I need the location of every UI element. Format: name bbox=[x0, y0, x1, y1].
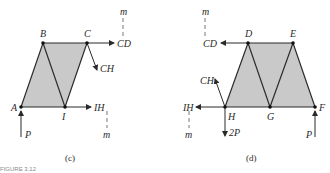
force-label-ch: CH bbox=[100, 63, 115, 74]
panel-d: D E F G H CD CH IH 2P P m m (d) bbox=[182, 6, 326, 163]
section-label-bottom-d: m bbox=[185, 129, 192, 140]
force-label-p: P bbox=[24, 129, 31, 140]
force-label-cd: CD bbox=[117, 38, 132, 49]
node-label-e: E bbox=[289, 28, 296, 39]
truss-section-d-fill bbox=[225, 43, 315, 107]
force-label-ih-d: IH bbox=[182, 102, 194, 113]
section-label-bottom: m bbox=[103, 129, 110, 140]
section-label-top-d: m bbox=[202, 6, 209, 17]
node-label-i: I bbox=[61, 111, 66, 122]
figure-footer-fragment: FIGURE 3.12 bbox=[0, 166, 36, 172]
node-e bbox=[291, 41, 295, 45]
truss-free-body-diagrams: A B C I CD CH IH P m m (c) bbox=[0, 0, 330, 173]
node-i bbox=[63, 105, 67, 109]
node-label-g: G bbox=[267, 111, 274, 122]
node-label-a: A bbox=[10, 102, 18, 113]
node-label-b: B bbox=[40, 28, 46, 39]
section-label-top: m bbox=[120, 6, 127, 17]
node-b bbox=[41, 41, 45, 45]
panel-c: A B C I CD CH IH P m m (c) bbox=[10, 6, 132, 163]
force-label-2p: 2P bbox=[229, 127, 240, 138]
force-label-ih: IH bbox=[93, 102, 105, 113]
force-label-ch-d: CH bbox=[200, 75, 215, 86]
force-arrow-ch-d bbox=[215, 79, 225, 107]
node-label-d: D bbox=[244, 28, 253, 39]
node-c bbox=[85, 41, 89, 45]
node-g bbox=[268, 105, 272, 109]
force-label-cd-d: CD bbox=[203, 38, 218, 49]
node-h bbox=[223, 105, 227, 109]
node-label-c: C bbox=[84, 28, 91, 39]
node-a bbox=[19, 105, 23, 109]
force-arrow-ch bbox=[87, 43, 97, 70]
node-label-f: F bbox=[318, 102, 326, 113]
node-f bbox=[313, 105, 317, 109]
caption-d: (d) bbox=[246, 153, 257, 163]
caption-c: (c) bbox=[65, 153, 75, 163]
node-label-h: H bbox=[227, 111, 236, 122]
force-label-p-d: P bbox=[305, 129, 312, 140]
node-d bbox=[246, 41, 250, 45]
